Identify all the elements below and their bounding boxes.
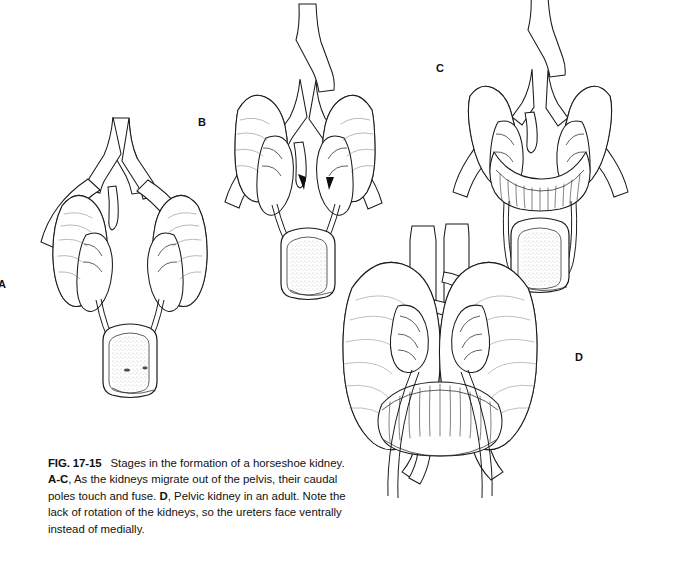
caption-panel-ref-d: D xyxy=(159,490,167,502)
figure-caption: FIG. 17-15Stages in the formation of a h… xyxy=(48,455,348,537)
panel-a-kidney-right xyxy=(148,195,208,311)
panel-a-kidney-left xyxy=(53,195,113,311)
caption-text-1: Stages in the formation of a horseshoe xyxy=(110,457,306,469)
figure-container: A B C D FIG. 17-15Stages in the formatio… xyxy=(0,0,678,576)
panel-label-c: C xyxy=(436,63,444,74)
figure-number: FIG. 17-15 xyxy=(48,457,101,469)
panel-b-illustration xyxy=(225,4,382,300)
panel-label-d: D xyxy=(575,352,583,363)
caption-text-3: , As the kidneys migrate out of the pelv… xyxy=(68,473,275,485)
panel-c-illustration xyxy=(453,0,628,293)
caption-panel-ref-ac: A-C xyxy=(48,473,68,485)
panel-label-b: B xyxy=(198,117,206,128)
caption-text-2: kidney. xyxy=(309,457,344,469)
caption-text-5: , Pelvic kidney in an xyxy=(168,490,269,502)
panel-a-illustration xyxy=(41,117,207,398)
panel-label-a: A xyxy=(0,279,6,290)
panel-a-bladder xyxy=(103,324,157,398)
panel-b-bladder xyxy=(281,228,335,300)
